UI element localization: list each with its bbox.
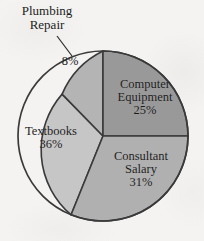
plumbing-repair-leader-line: [57, 36, 72, 56]
pie-value-plumbing-repair: 8%: [56, 55, 84, 68]
pie-chart: Plumbing Repair 8% Computer Equipment 25…: [0, 0, 204, 241]
pie-label-textbooks: Textbooks 36%: [12, 125, 90, 151]
pie-label-plumbing-repair: Plumbing Repair: [8, 4, 86, 31]
pie-value-textbooks: 36%: [12, 138, 90, 151]
pie-label-computer-equipment: Computer Equipment 25%: [108, 78, 182, 117]
pie-chart-graphic: [0, 0, 204, 241]
pie-value-computer-equipment: 25%: [108, 104, 182, 117]
pie-label-plumbing-repair-line1: Plumbing: [8, 4, 86, 18]
pie-label-consultant-salary: Consultant Salary 31%: [104, 150, 178, 189]
pie-value-consultant-salary: 31%: [104, 176, 178, 189]
pie-value-plumbing-repair-text: 8%: [56, 55, 84, 68]
pie-label-plumbing-repair-line2: Repair: [8, 18, 86, 32]
